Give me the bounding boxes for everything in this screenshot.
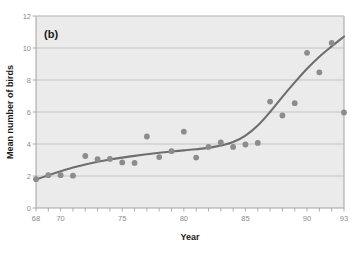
data-point: [280, 113, 286, 119]
data-point: [70, 173, 76, 179]
data-point: [316, 69, 322, 75]
svg-text:85: 85: [241, 214, 249, 223]
data-point: [33, 176, 39, 182]
data-point: [156, 154, 162, 160]
svg-text:0: 0: [27, 204, 31, 213]
data-point: [119, 160, 125, 166]
data-point: [144, 134, 150, 140]
data-point: [58, 172, 64, 178]
data-point: [218, 140, 224, 146]
data-point: [304, 50, 310, 56]
svg-text:68: 68: [32, 214, 40, 223]
svg-text:2: 2: [27, 172, 31, 181]
data-point: [193, 155, 199, 161]
data-point: [181, 129, 187, 135]
data-point: [243, 142, 249, 148]
bird-count-scatter-chart: 024681012 68707580859093 (b) Year Mean n…: [0, 0, 360, 255]
panel-label: (b): [44, 28, 58, 40]
data-point: [329, 40, 335, 46]
svg-text:4: 4: [27, 140, 31, 149]
data-point: [255, 140, 261, 146]
data-point: [95, 156, 101, 162]
svg-text:6: 6: [27, 108, 31, 117]
svg-text:75: 75: [118, 214, 126, 223]
data-point: [267, 99, 273, 105]
svg-text:8: 8: [27, 76, 31, 85]
svg-text:12: 12: [23, 12, 31, 21]
data-point: [82, 153, 88, 159]
data-point: [107, 156, 113, 162]
chart-figure: 024681012 68707580859093 (b) Year Mean n…: [0, 0, 360, 255]
data-point: [45, 172, 51, 178]
x-axis-title: Year: [180, 232, 200, 242]
data-point: [341, 110, 347, 116]
data-point: [132, 160, 138, 166]
data-point: [230, 144, 236, 150]
svg-text:80: 80: [180, 214, 188, 223]
data-point: [292, 100, 298, 106]
data-point: [206, 144, 212, 150]
y-axis-title: Mean number of birds: [5, 65, 15, 159]
svg-text:93: 93: [340, 214, 348, 223]
data-point: [169, 148, 175, 154]
svg-text:70: 70: [56, 214, 64, 223]
svg-text:10: 10: [23, 44, 31, 53]
svg-text:90: 90: [303, 214, 311, 223]
